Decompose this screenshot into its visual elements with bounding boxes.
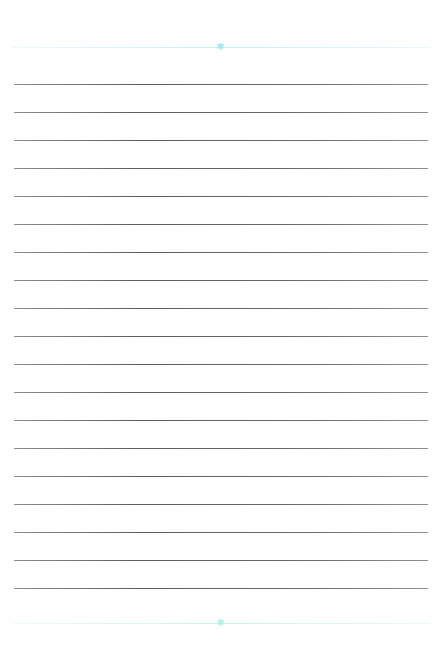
- top-star-icon: ✱: [216, 42, 225, 51]
- ruled-line: [14, 560, 428, 561]
- ruled-line: [14, 308, 428, 309]
- ruled-line: [14, 532, 428, 533]
- ruled-line: [14, 336, 428, 337]
- ruled-line: [14, 140, 428, 141]
- ruled-line: [14, 112, 428, 113]
- ruled-line: [14, 392, 428, 393]
- lined-paper-page: ✱ ✱: [0, 0, 447, 651]
- ruled-line: [14, 364, 428, 365]
- ruled-line: [14, 420, 428, 421]
- ruled-line: [14, 448, 428, 449]
- ruled-line: [14, 476, 428, 477]
- ruled-line: [14, 168, 428, 169]
- ruled-line: [14, 280, 428, 281]
- bottom-star-icon: ✱: [216, 618, 225, 627]
- ruled-line: [14, 588, 428, 589]
- ruled-line: [14, 504, 428, 505]
- ruled-line: [14, 196, 428, 197]
- ruled-line: [14, 252, 428, 253]
- ruled-line: [14, 224, 428, 225]
- ruled-line: [14, 84, 428, 85]
